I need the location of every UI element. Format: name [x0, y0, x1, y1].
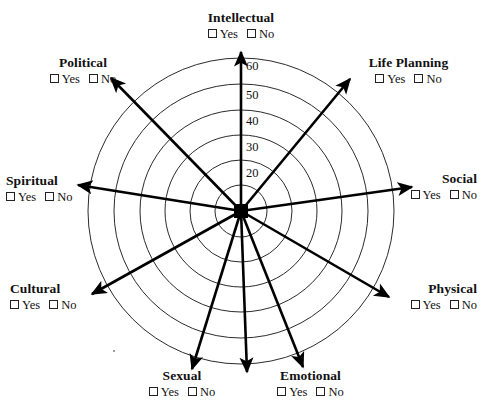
scale-tick-50: 50: [246, 88, 259, 103]
checkbox-intellectual-yes[interactable]: Yes: [208, 27, 238, 41]
axis-choices-physical: Yes No: [343, 298, 477, 312]
checkbox-label-no: No: [328, 385, 343, 399]
checkbox-cultural-yes[interactable]: Yes: [10, 298, 40, 312]
checkbox-box-icon[interactable]: [89, 74, 98, 83]
axis-choices-life-planning: Yes No: [341, 72, 476, 86]
checkbox-label-yes: Yes: [423, 188, 441, 202]
checkbox-label-no: No: [61, 298, 76, 312]
axis-label-social: Social Yes No: [351, 171, 477, 202]
checkbox-box-icon[interactable]: [247, 29, 256, 38]
axis-spoke-political: [111, 78, 241, 211]
checkbox-label-yes: Yes: [161, 385, 179, 399]
checkbox-label-no: No: [259, 27, 274, 41]
checkbox-box-icon[interactable]: [149, 387, 158, 396]
axis-choices-social: Yes No: [351, 188, 477, 202]
checkbox-box-icon[interactable]: [208, 29, 217, 38]
scale-tick-20: 20: [246, 166, 259, 181]
checkbox-label-no: No: [200, 385, 215, 399]
checkbox-physical-yes[interactable]: Yes: [411, 298, 441, 312]
axis-choices-sexual: Yes No: [119, 385, 245, 399]
checkbox-label-no: No: [462, 188, 477, 202]
checkbox-physical-no[interactable]: No: [450, 298, 477, 312]
checkbox-box-icon[interactable]: [188, 387, 197, 396]
axis-title-emotional: Emotional: [243, 368, 378, 384]
axis-spoke-lower-center: [241, 211, 247, 372]
checkbox-box-icon[interactable]: [414, 74, 423, 83]
axis-label-intellectual: Intellectual Yes No: [171, 10, 311, 41]
checkbox-box-icon[interactable]: [6, 192, 15, 201]
checkbox-label-no: No: [426, 72, 441, 86]
axis-title-intellectual: Intellectual: [171, 10, 311, 26]
axis-title-life-planning: Life Planning: [341, 55, 476, 71]
scale-tick-40: 40: [246, 114, 259, 129]
checkbox-life-planning-no[interactable]: No: [414, 72, 441, 86]
scale-tick-60: 60: [246, 59, 259, 74]
checkbox-spiritual-yes[interactable]: Yes: [6, 190, 36, 204]
checkbox-spiritual-no[interactable]: No: [45, 190, 72, 204]
checkbox-box-icon[interactable]: [10, 300, 19, 309]
checkbox-social-no[interactable]: No: [450, 188, 477, 202]
checkbox-label-no: No: [57, 190, 72, 204]
checkbox-box-icon[interactable]: [49, 300, 58, 309]
axis-choices-spiritual: Yes No: [6, 190, 112, 204]
checkbox-political-yes[interactable]: Yes: [50, 72, 80, 86]
checkbox-label-yes: Yes: [18, 190, 36, 204]
checkbox-box-icon[interactable]: [411, 190, 420, 199]
axis-label-emotional: Emotional Yes No: [243, 368, 378, 399]
axis-title-physical: Physical: [343, 281, 477, 297]
checkbox-label-no: No: [101, 72, 116, 86]
axis-label-physical: Physical Yes No: [343, 281, 477, 312]
axis-title-spiritual: Spiritual: [6, 173, 112, 189]
chart-center-hub: [234, 204, 248, 218]
axis-title-political: Political: [22, 55, 144, 71]
axis-title-sexual: Sexual: [119, 368, 245, 384]
checkbox-label-yes: Yes: [22, 298, 40, 312]
axis-title-social: Social: [351, 171, 477, 187]
checkbox-box-icon[interactable]: [411, 300, 420, 309]
page-speck: [113, 350, 115, 352]
scale-tick-30: 30: [246, 140, 259, 155]
axis-title-cultural: Cultural: [10, 281, 128, 297]
checkbox-emotional-yes[interactable]: Yes: [277, 385, 307, 399]
checkbox-intellectual-no[interactable]: No: [247, 27, 274, 41]
checkbox-label-yes: Yes: [220, 27, 238, 41]
checkbox-label-no: No: [462, 298, 477, 312]
axis-label-spiritual: Spiritual Yes No: [6, 173, 112, 204]
checkbox-label-yes: Yes: [423, 298, 441, 312]
checkbox-box-icon[interactable]: [277, 387, 286, 396]
checkbox-label-yes: Yes: [62, 72, 80, 86]
axis-choices-cultural: Yes No: [10, 298, 128, 312]
checkbox-emotional-no[interactable]: No: [316, 385, 343, 399]
checkbox-box-icon[interactable]: [316, 387, 325, 396]
checkbox-box-icon[interactable]: [50, 74, 59, 83]
axis-label-life-planning: Life Planning Yes No: [341, 55, 476, 86]
checkbox-political-no[interactable]: No: [89, 72, 116, 86]
checkbox-box-icon[interactable]: [450, 190, 459, 199]
axis-choices-political: Yes No: [22, 72, 144, 86]
checkbox-cultural-no[interactable]: No: [49, 298, 76, 312]
checkbox-label-yes: Yes: [387, 72, 405, 86]
checkbox-life-planning-yes[interactable]: Yes: [375, 72, 405, 86]
axis-choices-intellectual: Yes No: [171, 27, 311, 41]
checkbox-box-icon[interactable]: [450, 300, 459, 309]
radar-chart-page: 60 50 40 30 20 Intellectual Yes No Life …: [0, 0, 481, 417]
axis-label-cultural: Cultural Yes No: [10, 281, 128, 312]
checkbox-label-yes: Yes: [289, 385, 307, 399]
axis-label-sexual: Sexual Yes No: [119, 368, 245, 399]
axis-choices-emotional: Yes No: [243, 385, 378, 399]
axis-spoke-emotional: [241, 211, 303, 367]
checkbox-social-yes[interactable]: Yes: [411, 188, 441, 202]
checkbox-box-icon[interactable]: [45, 192, 54, 201]
checkbox-sexual-yes[interactable]: Yes: [149, 385, 179, 399]
axis-label-political: Political Yes No: [22, 55, 144, 86]
checkbox-sexual-no[interactable]: No: [188, 385, 215, 399]
checkbox-box-icon[interactable]: [375, 74, 384, 83]
